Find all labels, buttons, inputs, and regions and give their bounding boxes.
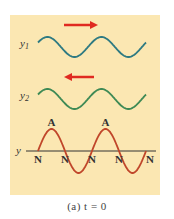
wave1-curve	[38, 37, 146, 57]
arrow-right-icon	[64, 21, 98, 29]
node-label: N	[88, 153, 96, 165]
node-label: N	[34, 153, 42, 165]
antinode-label: A	[102, 116, 110, 128]
arrow-left-icon	[64, 73, 94, 81]
antinode-label: A	[48, 116, 56, 128]
resultant-axis-label: y	[15, 144, 21, 156]
standing-wave-diagram: y1 y2 y NNNNNAA	[0, 0, 174, 219]
wave2-curve	[38, 89, 146, 109]
node-label: N	[146, 153, 154, 165]
caption: (a) t = 0	[0, 200, 174, 212]
wave1-label: y1	[19, 37, 29, 51]
node-label: N	[61, 153, 69, 165]
wave2-label: y2	[19, 89, 29, 103]
node-label: N	[115, 153, 123, 165]
